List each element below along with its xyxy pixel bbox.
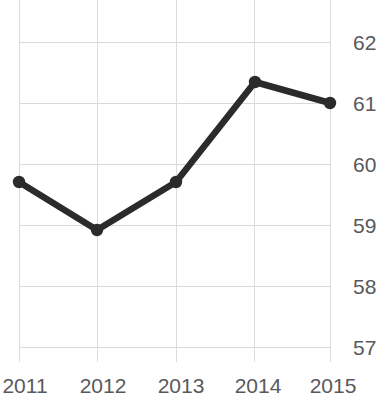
x-tick-label-2013: 2013 [158,374,205,397]
data-point-2014 [249,76,261,88]
data-point-2015 [324,97,336,109]
y-tick-label-57: 57 [353,336,376,359]
data-point-2013 [170,176,182,188]
data-markers [13,76,336,236]
data-series-line [19,82,330,230]
chart-canvas: 62 61 60 59 58 57 2011 2012 2013 2014 20… [0,0,390,406]
data-point-2012 [91,224,103,236]
line-chart: 62 61 60 59 58 57 2011 2012 2013 2014 20… [0,0,390,406]
data-point-2011 [13,176,25,188]
y-tick-label-61: 61 [353,92,376,115]
series-polyline [19,82,330,230]
y-tick-label-60: 60 [353,153,376,176]
x-tick-label-2012: 2012 [80,374,127,397]
y-tick-label-59: 59 [353,214,376,237]
y-tick-label-62: 62 [353,31,376,54]
y-tick-label-58: 58 [353,275,376,298]
x-tick-label-2015: 2015 [310,374,357,397]
x-tick-label-2014: 2014 [235,374,282,397]
x-tick-label-2011: 2011 [2,374,47,397]
x-axis-tick-labels: 2011 2012 2013 2014 2015 [2,374,356,397]
y-axis-tick-labels: 62 61 60 59 58 57 [353,31,376,359]
